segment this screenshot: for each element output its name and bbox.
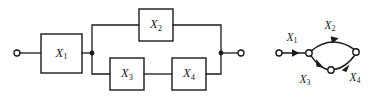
block-x4-subscript: 4 (191, 71, 196, 81)
block-x1-subscript: 1 (63, 51, 67, 61)
graph-node-start (276, 50, 282, 56)
diagram-canvas: X1 X2 X3 X4 (0, 0, 379, 100)
wire-x2-to-merge (173, 25, 221, 53)
wire-split-to-x3 (92, 53, 110, 74)
graph-edge-x3-subscript: 3 (307, 78, 311, 87)
graph-edge-x3 (311, 56, 328, 70)
wire-split-to-x2 (92, 25, 139, 53)
graph-edge-x1-label: X1 (285, 31, 297, 45)
input-terminal (14, 50, 20, 56)
wire-x4-to-merge (206, 53, 221, 74)
graph-edge-x4 (334, 55, 355, 70)
figure-svg: X1 X2 X3 X4 (0, 0, 379, 100)
graph-edge-x2-subscript: 2 (332, 24, 336, 33)
graph-edge-x4-label: X4 (348, 71, 360, 85)
graph-edge-x3-label: X3 (298, 73, 310, 87)
output-terminal (238, 50, 244, 56)
graph-edge-x4-subscript: 4 (357, 76, 361, 85)
graph-diagram-group: X1 X2 X3 X4 (276, 19, 361, 87)
graph-edge-x3-arrowhead (316, 59, 324, 68)
graph-edge-x1-arrowhead (292, 49, 300, 57)
graph-node-mid (328, 67, 334, 73)
block-x3-subscript: 3 (129, 71, 133, 81)
block-x2-subscript: 2 (158, 22, 162, 32)
graph-node-a (306, 50, 312, 56)
graph-edge-x2-label: X2 (323, 19, 335, 33)
graph-node-b (353, 49, 359, 55)
graph-edge-x1-subscript: 1 (294, 36, 298, 45)
block-diagram-group: X1 X2 X3 X4 (14, 9, 244, 90)
graph-edge-x2 (311, 42, 354, 51)
